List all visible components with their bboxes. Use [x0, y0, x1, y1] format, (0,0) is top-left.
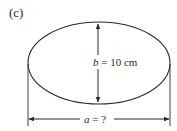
ellipse-diagram: (c) b = 10 cm a = ?	[0, 0, 177, 131]
b-dimension-label: b = 10 cm	[93, 56, 138, 68]
a-dimension-label: a = ?	[84, 113, 106, 125]
panel-label: (c)	[9, 5, 23, 20]
